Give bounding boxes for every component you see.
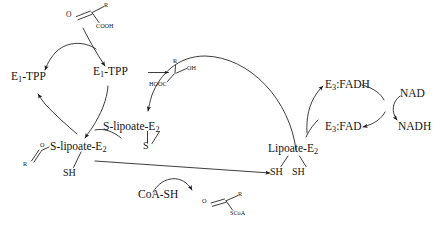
s-lipoate-e2-disulfide-sulfur-label: S (143, 141, 149, 151)
hydroxy-intermediate-r-group-label: R (173, 58, 177, 64)
lipoate-e2-prefix: Lipoate-E (268, 142, 314, 154)
arrow-ketoacid-to-e1tpp (83, 28, 105, 66)
bond-acylcoa-co-2 (212, 202, 226, 206)
keto-acid-oxygen-label: O (66, 11, 71, 19)
bond-intermediate-chooc (168, 74, 175, 82)
arrow-e1tpp-recycle-upper (45, 43, 96, 70)
bond-keto-ccooh (92, 13, 99, 23)
arrow-e1tpp-recycle-lower (38, 94, 77, 134)
e3-fadh-prefix: E (325, 78, 332, 90)
e3-fadh-suffix: :FADH (336, 78, 370, 90)
arrow-e3fad-to-lipoate (306, 120, 318, 137)
acyl-s-lipoate-thiol-label: SH (63, 168, 76, 178)
acyl-s-lipoate-oxygen-label: O (40, 142, 44, 148)
hydroxy-intermediate-hydroxyl-label: OH (187, 65, 196, 71)
e1-tpp-bound-label: E1-TPP (93, 66, 128, 79)
bond-keto-cr (92, 7, 104, 13)
arrow-lipoate-to-e3fadh (307, 86, 323, 133)
bond-lipoate-sh-left (281, 156, 288, 167)
acyl-s-lipoate-e2-subscript: 2 (102, 145, 106, 154)
e3-fad-label: E3:FAD (325, 121, 362, 134)
bond-intermediate-cr (175, 66, 176, 74)
arrow-nad-to-e3fad (363, 112, 385, 127)
diagram-canvas: central carbon --> (0, 0, 442, 227)
bond-lipoate-sh-right (300, 156, 307, 167)
acyl-coa-thioester-label: SCoA (230, 210, 245, 216)
nadh-label: NADH (398, 121, 431, 133)
bond-acyl-sh (74, 152, 82, 168)
e3-fad-prefix: E (325, 120, 332, 132)
e3-fadh-label: E3:FADH (325, 79, 370, 92)
acyl-coa-oxygen-label: O (202, 198, 206, 204)
arrow-lipoate-regenerate-arc (148, 56, 296, 150)
s-lipoate-e2-disulfide-prefix: S-lipoate-E (103, 120, 155, 132)
coa-sh-label: CoA-SH (138, 189, 178, 201)
bond-intermediate-coh (177, 69, 187, 74)
e1-tpp-bound-suffix: -TPP (104, 65, 128, 77)
diagram-arrows-and-bonds: central carbon --> (0, 0, 442, 227)
s-lipoate-e2-disulfide-label: S-lipoate-E2 (103, 121, 160, 134)
lipoate-e2-subscript: 2 (314, 147, 318, 156)
keto-acid-carboxyl-label: COOH (96, 23, 114, 29)
keto-acid-r-group-label: R (104, 2, 108, 8)
bond-acyl-co-2 (34, 152, 41, 163)
bond-acylcoa-cr (226, 196, 238, 201)
lipoate-e2-label: Lipoate-E2 (268, 143, 318, 156)
arrow-nad-to-nadh (393, 96, 400, 120)
e3-fad-suffix: :FAD (336, 120, 361, 132)
nad-label: NAD (400, 88, 425, 100)
hydroxy-intermediate-carboxyl-label: HOOC (149, 81, 167, 87)
arrow-acyl-transfer-to-lipoate (95, 161, 270, 173)
bond-acylcoa-co-1 (211, 199, 225, 203)
acyl-s-lipoate-e2-label: S-lipoate-E2 (50, 141, 107, 154)
acyl-s-lipoate-e2-prefix: S-lipoate-E (50, 140, 102, 152)
lipoate-e2-thiol-right-label: SH (292, 167, 305, 177)
e1-tpp-free-suffix: -TPP (22, 70, 46, 82)
s-lipoate-e2-disulfide-subscript: 2 (155, 125, 159, 134)
e1-tpp-free-label: E1-TPP (11, 71, 46, 84)
lipoate-e2-thiol-left-label: SH (270, 167, 283, 177)
e1-tpp-free-prefix: E (11, 70, 18, 82)
e1-tpp-bound-prefix: E (93, 65, 100, 77)
acyl-coa-r-group-label: R (238, 191, 242, 197)
acyl-s-lipoate-r-group-label: R (23, 161, 27, 167)
